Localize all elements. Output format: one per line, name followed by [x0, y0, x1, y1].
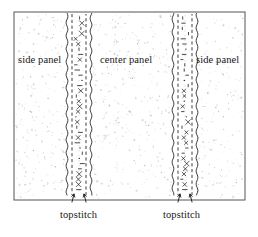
- label-center-panel: center panel: [100, 55, 152, 66]
- figure-canvas: side panel center panel side panel topst…: [0, 0, 258, 237]
- label-topstitch-left: topstitch: [60, 210, 97, 221]
- label-topstitch-right: topstitch: [163, 210, 200, 221]
- panel-background: [14, 12, 245, 200]
- label-side-panel-right: side panel: [196, 55, 239, 66]
- label-side-panel-left: side panel: [18, 55, 61, 66]
- pattern-illustration: [0, 0, 258, 237]
